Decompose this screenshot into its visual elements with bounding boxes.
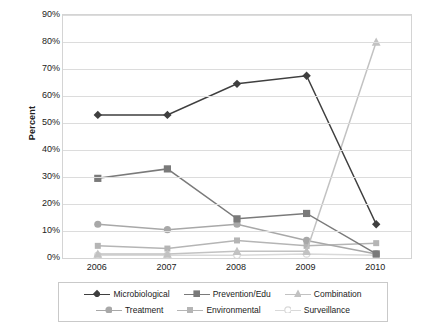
legend-swatch-icon [177,305,203,315]
legend-item[interactable]: Microbiological [84,289,169,299]
legend-swatch-icon [84,289,110,299]
y-tick-label: 40% [26,144,60,154]
y-tick-label: 70% [26,63,60,73]
x-tick-label: 2010 [365,262,385,272]
y-tick-label: 10% [26,225,60,235]
legend-swatch-icon [96,305,122,315]
plot-area [62,14,412,259]
line-chart: Percent 0%10%20%30%40%50%60%70%80%90% 20… [0,0,446,331]
y-tick-label: 90% [26,9,60,19]
y-axis-tick-labels: 0%10%20%30%40%50%60%70%80%90% [20,14,60,259]
gridline [63,231,411,232]
legend-label: Surveillance [304,305,350,315]
gridline [63,204,411,205]
y-tick-label: 30% [26,171,60,181]
x-tick-label: 2009 [296,262,316,272]
legend-row-bottom: TreatmentEnvironmentalSurveillance [63,302,383,318]
legend-item[interactable]: Treatment [96,305,163,315]
gridline [63,69,411,70]
legend-label: Microbiological [113,289,169,299]
gridline [63,96,411,97]
legend-label: Combination [314,289,362,299]
legend-label: Prevention/Edu [213,289,271,299]
x-tick-label: 2007 [156,262,176,272]
legend-label: Treatment [125,305,163,315]
legend-item[interactable]: Prevention/Edu [184,289,271,299]
legend-item[interactable]: Environmental [177,305,260,315]
legend-swatch-icon [285,289,311,299]
legend-item[interactable]: Combination [285,289,362,299]
y-tick-label: 80% [26,36,60,46]
gridline [63,123,411,124]
series-prevention-edu [94,165,380,257]
y-tick-label: 60% [26,90,60,100]
y-tick-label: 20% [26,198,60,208]
series-layer [63,15,411,258]
gridline [63,150,411,151]
chart-legend: MicrobiologicalPrevention/EduCombination… [58,282,388,322]
gridline [63,15,411,16]
legend-row-top: MicrobiologicalPrevention/EduCombination [63,286,383,302]
y-tick-label: 0% [26,252,60,262]
legend-label: Environmental [206,305,260,315]
legend-swatch-icon [184,289,210,299]
x-tick-label: 2008 [226,262,246,272]
gridline [63,42,411,43]
gridline [63,177,411,178]
legend-swatch-icon [275,305,301,315]
y-tick-label: 50% [26,117,60,127]
x-tick-label: 2006 [87,262,107,272]
legend-item[interactable]: Surveillance [275,305,350,315]
